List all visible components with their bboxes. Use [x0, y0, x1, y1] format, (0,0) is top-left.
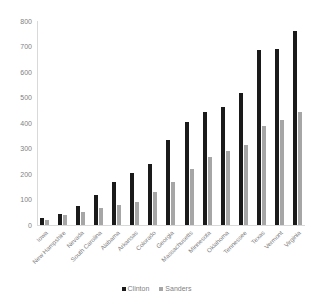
bar-clinton — [130, 173, 134, 225]
square-black-marker — [122, 287, 126, 291]
bar-chart: 8007006005004003002001000 IowaNew Hampsh… — [0, 0, 313, 304]
bar-clinton — [257, 50, 261, 225]
bar-clinton — [166, 140, 170, 225]
x-axis-category-labels: IowaNew HampshireNevadaSouth CarolinaAla… — [37, 227, 305, 279]
bar-group — [76, 21, 85, 225]
bar-sanders — [117, 205, 121, 225]
bar-sanders — [208, 157, 212, 225]
x-label-slot: Virginia — [293, 227, 302, 279]
x-label-slot: Tennessee — [239, 227, 248, 279]
bar-clinton — [185, 122, 189, 225]
bar-sanders — [99, 208, 103, 225]
bar-sanders — [298, 112, 302, 225]
y-axis-tick-label: 700 — [2, 43, 32, 50]
bar-group — [185, 21, 194, 225]
y-axis-tick-label: 0 — [2, 222, 32, 229]
bar-sanders — [226, 151, 230, 225]
bar-group — [221, 21, 230, 225]
y-axis-tick-label: 500 — [2, 94, 32, 101]
bar-clinton — [239, 93, 243, 225]
x-label-slot: New Hampshire — [58, 227, 67, 279]
y-axis-tick-label: 400 — [2, 120, 32, 127]
bar-group — [130, 21, 139, 225]
bar-clinton — [76, 206, 80, 225]
y-axis-tick-label: 100 — [2, 196, 32, 203]
bar-group — [257, 21, 266, 225]
bar-sanders — [190, 169, 194, 225]
x-axis-label: Iowa — [35, 229, 49, 243]
chart-legend: ClintonSanders — [0, 285, 313, 292]
bar-group — [58, 21, 67, 225]
bar-group — [94, 21, 103, 225]
bar-clinton — [203, 112, 207, 225]
legend-label: Sanders — [165, 285, 191, 292]
bar-sanders — [262, 126, 266, 225]
bar-clinton — [275, 49, 279, 225]
x-label-slot: Vermont — [275, 227, 284, 279]
legend-item[interactable]: Sanders — [159, 285, 191, 292]
x-axis-label: Virginia — [282, 229, 301, 248]
bar-clinton — [58, 214, 62, 225]
bar-sanders — [171, 182, 175, 225]
square-gray-marker — [159, 287, 163, 291]
x-label-slot: Colorado — [148, 227, 157, 279]
bar-group — [203, 21, 212, 225]
bar-sanders — [244, 145, 248, 225]
bar-group — [40, 21, 49, 225]
bar-sanders — [45, 220, 49, 225]
bar-sanders — [280, 120, 284, 225]
bar-sanders — [81, 212, 85, 225]
bar-clinton — [293, 31, 297, 225]
y-axis-tick-label: 600 — [2, 69, 32, 76]
bar-group — [275, 21, 284, 225]
legend-label: Clinton — [128, 285, 150, 292]
bar-group — [239, 21, 248, 225]
bar-sanders — [153, 192, 157, 225]
y-axis-tick-label: 300 — [2, 145, 32, 152]
y-axis-tick-label: 800 — [2, 18, 32, 25]
x-label-slot: Arkansas — [130, 227, 139, 279]
bar-clinton — [221, 107, 225, 225]
category-axis-line — [37, 225, 305, 226]
bar-group — [112, 21, 121, 225]
bar-clinton — [148, 164, 152, 225]
bar-clinton — [94, 195, 98, 225]
bar-group — [148, 21, 157, 225]
bar-group — [293, 21, 302, 225]
bar-clinton — [40, 218, 44, 225]
bar-group — [166, 21, 175, 225]
bar-clinton — [112, 182, 116, 225]
x-label-slot: South Carolina — [94, 227, 103, 279]
y-axis-tick-label: 200 — [2, 171, 32, 178]
legend-item[interactable]: Clinton — [122, 285, 150, 292]
x-label-slot: Alabama — [112, 227, 121, 279]
bar-sanders — [135, 202, 139, 225]
bar-sanders — [63, 215, 67, 225]
x-label-slot: Texas — [257, 227, 266, 279]
bar-group-container — [37, 21, 305, 225]
